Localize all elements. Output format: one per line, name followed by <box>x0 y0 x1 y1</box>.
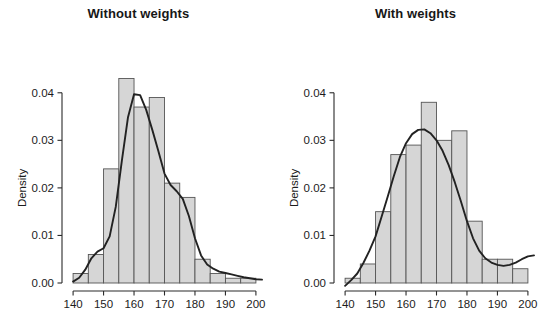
x-tick-label-1: 150 <box>366 298 385 310</box>
x-tick-label-6: 200 <box>246 298 265 310</box>
histogram-bar <box>210 273 225 283</box>
histogram-bars <box>73 79 256 283</box>
x-tick-label-6: 200 <box>518 298 537 310</box>
x-tick-label-3: 170 <box>155 298 174 310</box>
x-tick-label-0: 140 <box>336 298 355 310</box>
histogram-bar <box>497 259 512 283</box>
y-tick-label-4: 0.04 <box>32 87 55 99</box>
histogram-bar <box>360 264 375 283</box>
x-tick-label-5: 190 <box>216 298 235 310</box>
histogram-bar <box>452 131 467 283</box>
histogram-bar <box>391 155 406 283</box>
histogram-bar <box>134 107 149 283</box>
histogram-bar <box>437 140 452 283</box>
y-tick-label-3: 0.03 <box>304 134 326 146</box>
histogram-bar <box>406 145 421 283</box>
y-tick-label-0: 0.00 <box>32 277 54 289</box>
x-tick-label-4: 180 <box>457 298 476 310</box>
y-tick-label-0: 0.00 <box>304 277 326 289</box>
panel-without-weights: Without weights 0.000.010.020.030.04Dens… <box>0 0 277 332</box>
histogram-figure: Without weights 0.000.010.020.030.04Dens… <box>0 0 554 332</box>
x-tick-label-5: 190 <box>488 298 507 310</box>
histogram-bar <box>376 212 391 283</box>
y-tick-label-1: 0.01 <box>32 229 54 241</box>
histogram-bar <box>482 259 497 283</box>
x-tick-label-4: 180 <box>185 298 204 310</box>
histogram-bars <box>345 102 528 283</box>
y-axis-label: Density <box>16 168 28 207</box>
histogram-bar <box>119 79 134 283</box>
x-tick-label-0: 140 <box>64 298 83 310</box>
plot-area-with-weights: 0.000.010.020.030.04Density1401501601701… <box>277 0 554 332</box>
y-tick-label-1: 0.01 <box>304 229 326 241</box>
plot-area-without-weights: 0.000.010.020.030.04Density1401501601701… <box>0 0 277 332</box>
x-tick-label-3: 170 <box>427 298 446 310</box>
histogram-bar <box>195 259 210 283</box>
x-tick-label-2: 160 <box>124 298 143 310</box>
y-tick-label-2: 0.02 <box>32 182 54 194</box>
y-tick-label-4: 0.04 <box>304 87 327 99</box>
x-tick-label-1: 150 <box>94 298 113 310</box>
panel-with-weights: With weights 0.000.010.020.030.04Density… <box>277 0 554 332</box>
y-tick-label-3: 0.03 <box>32 134 54 146</box>
histogram-bar <box>165 183 180 283</box>
histogram-bar <box>513 269 528 283</box>
y-axis-label: Density <box>288 168 300 207</box>
x-tick-label-2: 160 <box>396 298 415 310</box>
y-tick-label-2: 0.02 <box>304 182 326 194</box>
histogram-bar <box>225 278 240 283</box>
